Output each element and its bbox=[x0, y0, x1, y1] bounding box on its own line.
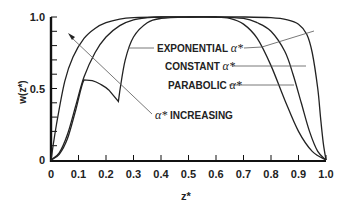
x-tick-label: 0.7 bbox=[236, 168, 251, 180]
label-alpha-increasing: α* INCREASING bbox=[155, 108, 233, 122]
label-exponential: EXPONENTIAL α* bbox=[157, 41, 243, 55]
x-tick-label: 0.3 bbox=[126, 168, 141, 180]
x-axis-label: z* bbox=[181, 190, 192, 202]
y-tick-label: 1.0 bbox=[30, 11, 45, 23]
x-tick-label: 0.9 bbox=[291, 168, 306, 180]
x-tick-label: 0.5 bbox=[181, 168, 196, 180]
label-parabolic: PARABOLIC α* bbox=[168, 78, 242, 92]
y-tick-label: 0.5 bbox=[30, 83, 45, 95]
line-chart: 00.10.20.30.40.50.60.70.80.91.000.51.0 E… bbox=[0, 0, 341, 205]
arrow-head-icon bbox=[68, 33, 75, 40]
leader-exponential-right bbox=[244, 31, 314, 48]
x-tick-label: 0.1 bbox=[71, 168, 86, 180]
x-tick-label: 0.2 bbox=[98, 168, 113, 180]
label-constant: CONSTANT α* bbox=[165, 59, 235, 73]
x-tick-label: 0.6 bbox=[208, 168, 223, 180]
y-axis-label: w(z*) bbox=[17, 80, 28, 104]
tick-labels: 00.10.20.30.40.50.60.70.80.91.000.51.0 bbox=[30, 11, 334, 180]
x-tick-label: 0.8 bbox=[263, 168, 278, 180]
x-tick-label: 1.0 bbox=[318, 168, 333, 180]
x-tick-label: 0 bbox=[48, 168, 54, 180]
y-tick-label: 0 bbox=[39, 154, 45, 166]
x-tick-label: 0.4 bbox=[153, 168, 169, 180]
